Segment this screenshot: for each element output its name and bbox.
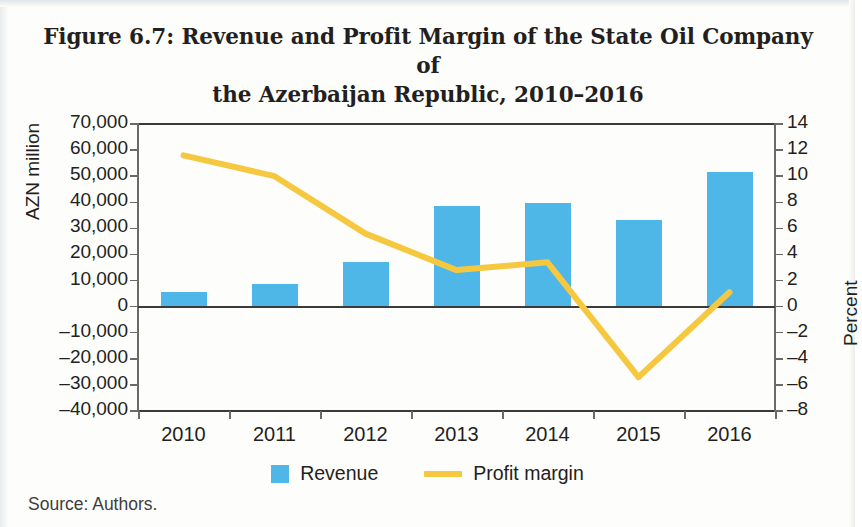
x-axis-tick — [411, 411, 413, 419]
plot-region — [138, 124, 775, 411]
figure-title-line-1: Figure 6.7: Revenue and Profit Margin of… — [43, 24, 813, 78]
y-axis-left-tick — [130, 306, 138, 308]
y-axis-right-tick-label: 8 — [787, 189, 798, 211]
page-edge-top — [0, 0, 855, 7]
y-axis-right-tick-label: 2 — [787, 268, 798, 290]
figure-title: Figure 6.7: Revenue and Profit Margin of… — [28, 22, 828, 109]
y-axis-right-tick — [775, 358, 783, 360]
y-axis-left-tick — [130, 358, 138, 360]
y-axis-left-tick — [130, 175, 138, 177]
y-axis-right-tick — [775, 280, 783, 282]
x-axis-tick — [684, 411, 686, 419]
y-axis-right-tick-label: –2 — [787, 320, 808, 342]
y-axis-left-tick-label: 30,000 — [0, 215, 128, 237]
y-axis-left-tick-label: –10,000 — [0, 320, 128, 342]
legend-label-revenue: Revenue — [300, 462, 378, 485]
y-axis-left-tick — [130, 254, 138, 256]
y-axis-right-tick — [775, 175, 783, 177]
y-axis-right-tick-label: 0 — [787, 294, 798, 316]
y-axis-left-tick — [130, 123, 138, 125]
legend-item-revenue: Revenue — [271, 462, 378, 485]
x-axis-tick — [229, 411, 231, 419]
legend-swatch-revenue-icon — [271, 465, 289, 483]
x-axis-tick — [138, 411, 140, 419]
y-axis-right-title: Percent — [840, 281, 862, 346]
y-axis-left-tick-label: –40,000 — [0, 398, 128, 420]
line-series-profit-margin — [138, 124, 775, 411]
y-axis-right-tick-label: 4 — [787, 241, 798, 263]
y-axis-left-tick — [130, 410, 138, 412]
legend-label-profit-margin: Profit margin — [473, 462, 584, 485]
profit-margin-polyline — [184, 155, 730, 377]
y-axis-right-tick-label: 10 — [787, 163, 808, 185]
y-axis-left-tick — [130, 149, 138, 151]
y-axis-right-tick — [775, 228, 783, 230]
y-axis-left-tick-label: 50,000 — [0, 163, 128, 185]
y-axis-left-tick — [130, 280, 138, 282]
legend-swatch-profit-margin-icon — [424, 471, 462, 477]
y-axis-right-tick — [775, 332, 783, 334]
x-axis-tick — [593, 411, 595, 419]
y-axis-left-tick — [130, 202, 138, 204]
y-axis-right-tick-label: –4 — [787, 346, 808, 368]
x-axis-tick — [775, 411, 777, 419]
x-axis-tick-label-2014: 2014 — [503, 423, 593, 446]
y-axis-right-tick — [775, 202, 783, 204]
y-axis-right-tick — [775, 149, 783, 151]
y-axis-right-tick — [775, 306, 783, 308]
y-axis-left-tick-label: 70,000 — [0, 111, 128, 133]
y-axis-right-tick-label: –8 — [787, 398, 808, 420]
y-axis-right-tick — [775, 384, 783, 386]
y-axis-left-tick-label: 40,000 — [0, 189, 128, 211]
legend-item-profit-margin: Profit margin — [424, 462, 584, 485]
x-axis-tick-label-2015: 2015 — [594, 423, 684, 446]
x-axis-tick-label-2013: 2013 — [412, 423, 502, 446]
y-axis-right-tick-label: 14 — [787, 111, 808, 133]
y-axis-right-tick-label: –6 — [787, 372, 808, 394]
y-axis-left-tick-label: –30,000 — [0, 372, 128, 394]
y-axis-right-tick-label: 12 — [787, 137, 808, 159]
figure-source: Source: Authors. — [28, 494, 157, 515]
y-axis-left-tick-label: 0 — [0, 294, 128, 316]
y-axis-left-tick — [130, 332, 138, 334]
y-axis-left-tick — [130, 384, 138, 386]
x-axis-tick — [502, 411, 504, 419]
y-axis-left-tick — [130, 228, 138, 230]
x-axis-tick-label-2010: 2010 — [139, 423, 229, 446]
y-axis-right-tick — [775, 254, 783, 256]
y-axis-left-tick-label: 60,000 — [0, 137, 128, 159]
x-axis-tick-label-2016: 2016 — [685, 423, 775, 446]
chart-area: AZN million Percent 70,00060,00050,00040… — [0, 100, 855, 460]
y-axis-left-tick-label: –20,000 — [0, 346, 128, 368]
y-axis-right-tick-label: 6 — [787, 215, 798, 237]
x-axis-tick-label-2011: 2011 — [230, 423, 320, 446]
chart-legend: Revenue Profit margin — [0, 462, 855, 485]
x-axis-tick — [320, 411, 322, 419]
x-axis-tick-label-2012: 2012 — [321, 423, 411, 446]
y-axis-right-tick — [775, 123, 783, 125]
y-axis-left-tick-label: 20,000 — [0, 241, 128, 263]
y-axis-left-tick-label: 10,000 — [0, 268, 128, 290]
